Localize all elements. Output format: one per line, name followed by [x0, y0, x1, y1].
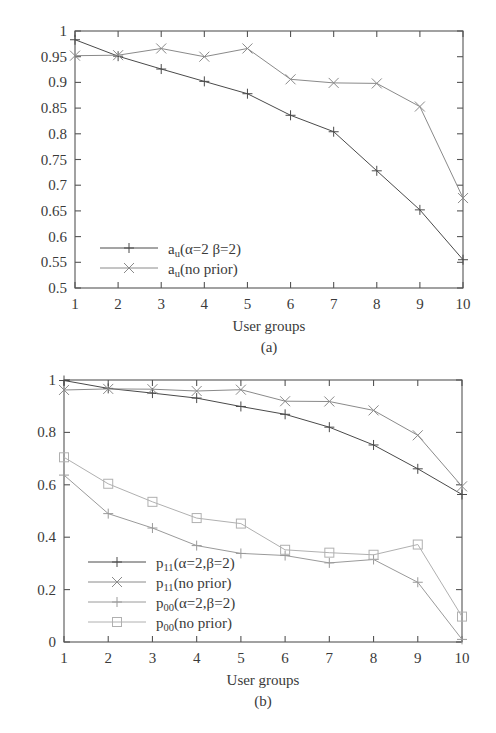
panel-a-plot: 0.50.550.60.650.70.750.80.850.90.9511234… — [0, 0, 496, 368]
y-axis-tick-label: 0 — [49, 634, 57, 650]
y-axis-tick-label: 0.6 — [37, 477, 56, 493]
x-axis-tick-label: 2 — [114, 296, 122, 312]
data-point-marker — [280, 551, 290, 561]
data-series — [59, 384, 467, 491]
chart-panel-a: 0.50.550.60.650.70.750.80.850.90.9511234… — [0, 0, 496, 368]
x-axis-title: User groups — [227, 672, 300, 688]
series-line — [64, 381, 462, 495]
data-point-marker — [124, 243, 134, 253]
x-axis-tick-label: 4 — [201, 296, 209, 312]
data-point-marker — [156, 64, 166, 74]
data-series — [70, 35, 468, 265]
data-point-marker — [59, 376, 69, 386]
y-axis-tick-label: 0.6 — [48, 229, 67, 245]
panel-caption: (b) — [254, 693, 272, 710]
data-series — [60, 453, 467, 621]
data-point-marker — [236, 401, 246, 411]
data-point-marker — [324, 558, 334, 568]
y-axis-tick-label: 0.9 — [48, 74, 67, 90]
legend-label: au(no prior) — [168, 261, 238, 280]
data-point-marker — [242, 43, 252, 53]
x-axis-tick-label: 6 — [287, 296, 295, 312]
chart-legend: p11(α=2,β=2)p11(no prior)p00(α=2,β=2)p00… — [88, 555, 235, 634]
x-axis-tick-label: 8 — [370, 650, 378, 666]
y-axis-tick-label: 0.4 — [37, 529, 56, 545]
y-axis-tick-label: 0.65 — [41, 203, 67, 219]
data-point-marker — [369, 440, 379, 450]
data-point-marker — [280, 409, 290, 419]
x-axis-tick-label: 7 — [330, 296, 338, 312]
x-axis-tick-label: 10 — [456, 296, 471, 312]
x-axis-tick-label: 5 — [237, 650, 245, 666]
x-axis-tick-label: 3 — [149, 650, 157, 666]
series-line — [75, 49, 463, 199]
data-point-marker — [192, 541, 202, 551]
data-series — [59, 470, 467, 644]
legend-label: p11(no prior) — [156, 575, 232, 594]
x-axis-tick-label: 1 — [71, 296, 79, 312]
x-axis-tick-label: 4 — [193, 650, 201, 666]
chart-legend: au(α=2 β=2)au(no prior) — [100, 241, 241, 280]
data-point-marker — [147, 523, 157, 533]
data-point-marker — [324, 422, 334, 432]
y-axis-tick-label: 0.5 — [48, 280, 67, 296]
chart-panel-b: 00.20.40.60.8112345678910User groups(b)p… — [0, 362, 496, 733]
x-axis-tick-label: 9 — [416, 296, 424, 312]
x-axis-tick-label: 3 — [157, 296, 165, 312]
data-point-marker — [112, 597, 122, 607]
y-axis-tick-label: 0.7 — [48, 177, 67, 193]
x-axis-tick-label: 2 — [104, 650, 112, 666]
data-point-marker — [112, 557, 122, 567]
legend-label: p00(α=2,β=2) — [156, 595, 235, 614]
data-point-marker — [113, 51, 123, 61]
data-series — [59, 376, 467, 500]
x-axis-tick-label: 7 — [326, 650, 334, 666]
data-series — [70, 43, 468, 203]
x-axis-tick-label: 1 — [60, 650, 68, 666]
y-axis-tick-label: 1 — [60, 23, 68, 39]
x-axis-title: User groups — [233, 318, 306, 334]
y-axis-tick-label: 0.8 — [37, 424, 56, 440]
data-point-marker — [286, 110, 296, 120]
data-point-marker — [199, 76, 209, 86]
data-point-marker — [156, 43, 166, 53]
y-axis-tick-label: 0.2 — [37, 582, 56, 598]
data-point-marker — [413, 464, 423, 474]
data-point-marker — [199, 52, 209, 62]
legend-label: p11(α=2,β=2) — [156, 555, 235, 574]
series-line — [64, 389, 462, 487]
plot-frame — [64, 380, 462, 642]
y-axis-tick-label: 0.85 — [41, 100, 67, 116]
data-point-marker — [457, 489, 467, 499]
series-line — [75, 40, 463, 260]
y-axis-tick-label: 0.55 — [41, 254, 67, 270]
series-line — [64, 475, 462, 639]
x-axis-tick-label: 6 — [281, 650, 289, 666]
data-point-marker — [457, 634, 467, 644]
y-axis-tick-label: 0.75 — [41, 152, 67, 168]
data-point-marker — [70, 35, 80, 45]
data-point-marker — [413, 577, 423, 587]
data-point-marker — [236, 548, 246, 558]
data-point-marker — [415, 102, 425, 112]
series-line — [64, 457, 462, 616]
y-axis-tick-label: 0.8 — [48, 126, 67, 142]
x-axis-tick-label: 8 — [373, 296, 381, 312]
legend-label: au(α=2 β=2) — [168, 241, 241, 260]
plot-frame — [75, 31, 463, 288]
x-axis-tick-label: 9 — [414, 650, 422, 666]
panel-caption: (a) — [261, 339, 278, 356]
data-point-marker — [369, 405, 379, 415]
data-point-marker — [242, 89, 252, 99]
data-point-marker — [413, 430, 423, 440]
legend-label: p00(no prior) — [156, 615, 232, 634]
y-axis-tick-label: 0.95 — [41, 49, 67, 65]
panel-b-plot: 00.20.40.60.8112345678910User groups(b)p… — [0, 362, 496, 733]
x-axis-tick-label: 10 — [455, 650, 470, 666]
y-axis-tick-label: 1 — [49, 372, 57, 388]
x-axis-tick-label: 5 — [244, 296, 252, 312]
